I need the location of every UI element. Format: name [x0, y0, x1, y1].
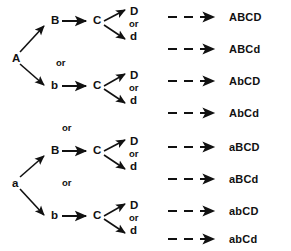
- node-b-row4: b: [51, 210, 58, 221]
- outcome-label-8: abCd: [229, 234, 257, 245]
- outcome-label-1: ABCD: [229, 12, 262, 23]
- edge-C-to-d-row4: [104, 219, 125, 233]
- outcome-label-5: aBCD: [229, 142, 260, 153]
- node-C-row3: C: [93, 145, 101, 156]
- node-D-row3: D: [130, 136, 138, 147]
- node-D-row2: D: [130, 70, 138, 81]
- node-d-row1: d: [130, 31, 137, 42]
- node-C-row1: C: [93, 15, 101, 26]
- outcome-label-4: AbCd: [229, 108, 259, 119]
- node-C-row2: C: [93, 80, 101, 91]
- edge-C-to-D-row2: [104, 74, 125, 86]
- branch-diagram: A or B C D or d b C D or d or a or B C D…: [0, 0, 291, 251]
- or-label-row1: or: [129, 19, 139, 29]
- node-D-row1: D: [130, 6, 138, 17]
- or-label-group-a-middle: or: [62, 178, 72, 188]
- node-d-row4: d: [130, 225, 137, 236]
- or-label-row2: or: [129, 83, 139, 93]
- node-B-row3: B: [51, 145, 59, 156]
- or-label-group-a-top: or: [62, 123, 72, 133]
- node-d-row2: d: [130, 95, 137, 106]
- outcome-label-6: aBCd: [229, 174, 259, 185]
- edge-A-to-b: [20, 64, 44, 85]
- or-label-row4: or: [129, 213, 139, 223]
- edge-C-to-D-row1: [104, 10, 125, 21]
- or-label-row3: or: [129, 149, 139, 159]
- node-A: A: [12, 53, 20, 64]
- edge-a-to-B: [20, 156, 44, 177]
- node-d-row3: d: [130, 161, 137, 172]
- or-label-group-A-middle: or: [56, 58, 66, 68]
- node-B-row1: B: [51, 15, 59, 26]
- edge-a-to-b: [20, 189, 44, 215]
- node-C-row4: C: [93, 210, 101, 221]
- outcome-label-7: abCD: [229, 206, 259, 217]
- edge-C-to-D-row3: [104, 140, 125, 151]
- node-b-row2: b: [51, 80, 58, 91]
- outcome-label-3: AbCD: [229, 76, 260, 87]
- edge-A-to-B: [20, 26, 44, 52]
- edge-C-to-d-row1: [104, 25, 125, 39]
- node-D-row4: D: [130, 200, 138, 211]
- node-a: a: [12, 178, 18, 189]
- edge-C-to-d-row2: [104, 89, 125, 103]
- outcome-label-2: ABCd: [229, 44, 260, 55]
- edge-C-to-d-row3: [104, 155, 125, 169]
- edge-C-to-D-row4: [104, 204, 125, 216]
